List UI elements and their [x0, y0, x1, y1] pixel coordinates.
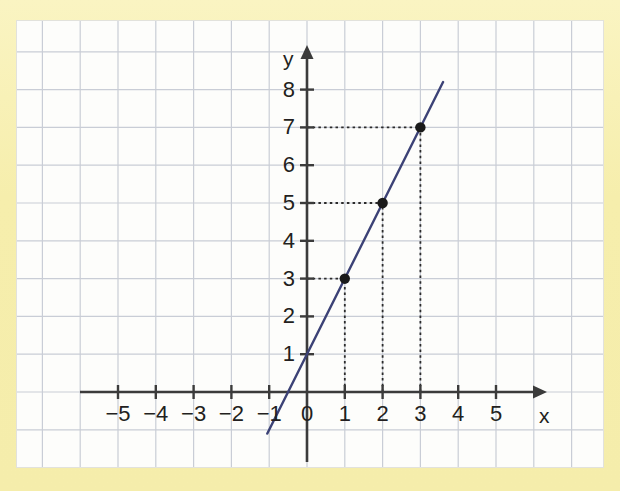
y-tick-label: 1 — [283, 341, 295, 367]
y-tick-label: 7 — [283, 114, 295, 140]
y-axis-arrow-icon — [301, 45, 314, 59]
x-tick-label: −1 — [257, 401, 282, 427]
x-tick-label: −3 — [181, 401, 206, 427]
x-axis-arrow-icon — [533, 386, 547, 399]
figure-page: −5−4−3−2−101234512345678xy — [0, 0, 620, 491]
x-tick-label: 5 — [490, 401, 502, 427]
x-tick-label: 1 — [339, 401, 351, 427]
data-point[interactable] — [377, 198, 387, 208]
x-tick-label: −4 — [143, 401, 168, 427]
y-axis-label: y — [283, 47, 294, 71]
y-tick-label: 4 — [283, 228, 295, 254]
x-tick-label: −2 — [219, 401, 244, 427]
data-point[interactable] — [415, 122, 425, 132]
x-tick-label: 0 — [301, 401, 313, 427]
x-tick-label: 2 — [376, 401, 388, 427]
x-tick-label: −5 — [105, 401, 130, 427]
y-tick-label: 2 — [283, 303, 295, 329]
y-tick-label: 5 — [283, 190, 295, 216]
y-tick-label: 3 — [283, 266, 295, 292]
x-tick-label: 3 — [414, 401, 426, 427]
x-axis-label: x — [539, 404, 550, 428]
x-tick-label: 4 — [452, 401, 464, 427]
data-point[interactable] — [340, 273, 350, 283]
y-tick-label: 6 — [283, 152, 295, 178]
graph-panel: −5−4−3−2−101234512345678xy — [17, 21, 603, 467]
y-tick-label: 8 — [283, 77, 295, 103]
